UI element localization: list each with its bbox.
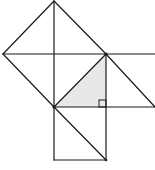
geometry-diagram xyxy=(0,0,155,170)
vertex-A-dot xyxy=(52,105,55,108)
edge-left-bottom xyxy=(3,54,54,107)
bottom-square-diagonal xyxy=(54,107,106,160)
edge-top-left xyxy=(3,1,54,54)
vertex-B-dot xyxy=(104,52,107,55)
edge-top-right xyxy=(54,1,106,54)
diagram-canvas xyxy=(0,0,155,170)
vertex-bottom-right-dot xyxy=(105,159,108,162)
right-diagonal xyxy=(106,54,155,107)
